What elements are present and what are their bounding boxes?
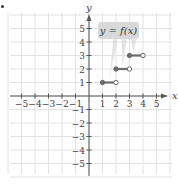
y-tick-label: −4 (72, 146, 86, 156)
y-tick-label: −2 (72, 119, 85, 129)
y-tick-label: 2 (79, 65, 85, 75)
function-label: y = f(x) (99, 25, 138, 36)
open-endpoint (114, 80, 118, 84)
function-label-callout: y = f(x) (98, 22, 139, 80)
y-axis-label: y (85, 2, 92, 13)
y-tick-label: 1 (79, 78, 85, 88)
closed-endpoint (127, 53, 131, 57)
open-endpoint (127, 67, 131, 71)
x-tick-label: −5 (15, 99, 29, 109)
x-tick-label: −2 (55, 99, 68, 109)
x-tick-label: 5 (154, 99, 160, 109)
y-tick-label: −1 (72, 105, 85, 115)
x-tick-label: −3 (42, 99, 56, 109)
coordinate-plane: xy−5−4−3−2−11234554321−1−2−3−4−5y = f(x) (0, 0, 178, 184)
x-tick-label: −4 (28, 99, 42, 109)
step-segment (114, 67, 132, 71)
step-segment (100, 80, 118, 84)
y-tick-label: −3 (72, 132, 86, 142)
closed-endpoint (100, 80, 104, 84)
grid (8, 13, 172, 177)
x-tick-label: 3 (127, 99, 133, 109)
step-segment (127, 53, 145, 57)
step-function-graph: xy−5−4−3−2−11234554321−1−2−3−4−5y = f(x) (0, 0, 178, 184)
y-tick-label: 5 (79, 24, 85, 34)
closed-endpoint (114, 67, 118, 71)
x-tick-label: 2 (113, 99, 119, 109)
open-endpoint (141, 53, 145, 57)
list-bullet (1, 5, 4, 8)
y-tick-label: 3 (79, 51, 85, 61)
x-axis-arrow-icon (161, 94, 168, 99)
callout-pointer (131, 39, 136, 53)
callout-pointer (121, 39, 126, 66)
x-axis-label: x (172, 90, 178, 101)
y-tick-label: −5 (72, 159, 86, 169)
x-tick-label: 4 (140, 99, 146, 109)
x-tick-label: 1 (100, 99, 106, 109)
y-tick-label: 4 (79, 38, 85, 48)
